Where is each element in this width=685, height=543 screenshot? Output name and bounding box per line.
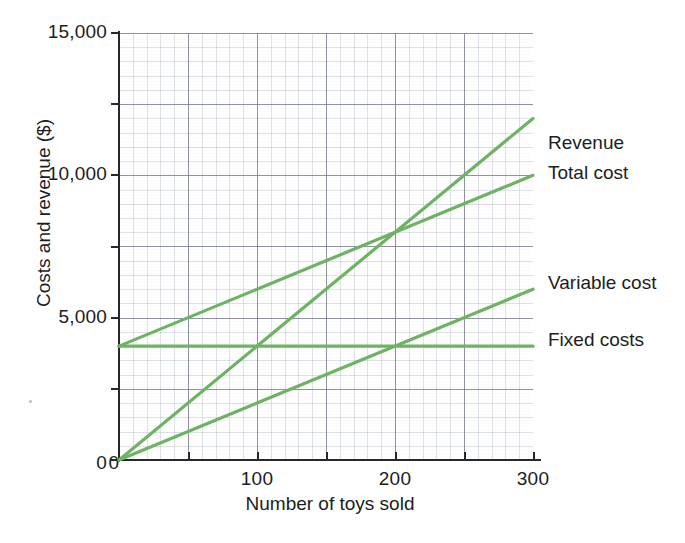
series-line-revenue: [119, 118, 533, 460]
y-axis-label: Costs and revenue ($): [33, 83, 55, 343]
x-tick-label-200: 200: [365, 468, 425, 490]
legend-label-total-cost: Total cost: [548, 162, 628, 184]
series-lines: [119, 33, 533, 460]
legend-label-fixed-costs: Fixed costs: [548, 329, 644, 351]
x-tick-300: [533, 452, 535, 461]
y-tick-label-0: 0: [0, 452, 107, 474]
legend-label-variable-cost: Variable cost: [548, 272, 656, 294]
series-line-variable-cost: [119, 289, 533, 460]
chart-page: 15,000 10,000 5,000 0 0 100 200 300 Cost…: [0, 0, 685, 543]
series-line-total-cost: [119, 175, 533, 346]
legend-label-revenue: Revenue: [548, 132, 624, 154]
y-tick-label-15000: 15,000: [0, 21, 107, 43]
x-axis-label: Number of toys sold: [150, 493, 510, 515]
x-tick-label-300: 300: [503, 468, 563, 490]
x-tick-label-100: 100: [227, 468, 287, 490]
scan-speck: [29, 400, 32, 403]
